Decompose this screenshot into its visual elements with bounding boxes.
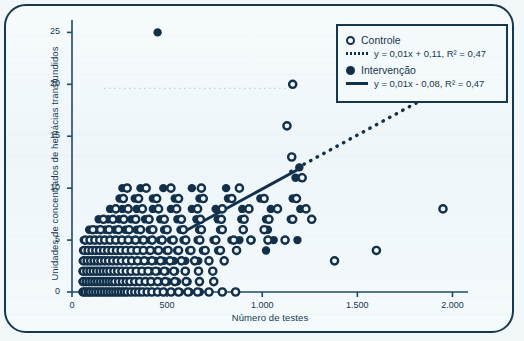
data-point-controle [170, 268, 177, 275]
data-point-controle [175, 288, 182, 295]
data-point-controle [230, 236, 237, 243]
data-point-controle [210, 278, 217, 285]
data-point-controle [236, 185, 243, 192]
data-point-controle [167, 185, 174, 192]
paper-texture-line [8, 314, 516, 315]
data-point-controle [100, 216, 107, 223]
paper-texture-line [8, 254, 516, 255]
data-point-controle [245, 205, 252, 212]
data-point-controle [166, 257, 173, 264]
y-tick-label: 10 [36, 182, 60, 192]
data-point-controle [209, 268, 216, 275]
data-point-controle [194, 205, 201, 212]
data-point-controle [180, 226, 187, 233]
data-point-controle [160, 288, 167, 295]
paper-texture-line [8, 95, 516, 96]
data-point-controle [141, 257, 148, 264]
data-point-controle [218, 216, 225, 223]
data-point-controle [89, 226, 96, 233]
data-point-controle [125, 226, 132, 233]
data-point-controle [159, 236, 166, 243]
x-tick-label: 1.500 [335, 300, 379, 310]
data-point-controle [289, 216, 296, 223]
data-point-controle [196, 278, 203, 285]
data-point-intervencao [293, 236, 301, 244]
data-point-controle [155, 247, 162, 254]
data-point-controle [219, 288, 226, 295]
data-point-controle [173, 205, 180, 212]
data-point-controle [161, 216, 168, 223]
data-point-controle [144, 268, 151, 275]
paper-texture-line [8, 176, 516, 177]
data-point-controle [293, 195, 300, 202]
data-point-controle [308, 216, 315, 223]
paper-texture-line [8, 74, 516, 75]
data-point-controle [120, 195, 127, 202]
y-tick-label: 15 [36, 130, 60, 140]
data-point-controle [212, 236, 219, 243]
legend-label-controle-equation: y = 0,01x + 0,11, R² = 0,47 [374, 48, 486, 59]
data-point-controle [196, 236, 203, 243]
data-point-controle [149, 236, 156, 243]
data-point-controle [178, 257, 185, 264]
paper-texture-line [8, 56, 516, 57]
data-point-controle [202, 247, 209, 254]
data-point-controle [194, 288, 201, 295]
data-point-controle [232, 288, 239, 295]
series-intervencao [78, 28, 305, 296]
x-tick-label: 500 [145, 300, 189, 310]
data-point-controle [140, 236, 147, 243]
data-point-controle [219, 205, 226, 212]
x-tick-label: 1.000 [240, 300, 284, 310]
data-point-controle [205, 288, 212, 295]
data-point-controle [261, 195, 268, 202]
data-point-controle [124, 185, 131, 192]
data-point-controle [187, 247, 194, 254]
data-point-controle [195, 268, 202, 275]
data-point-controle [132, 236, 139, 243]
paper-texture-line [8, 155, 516, 156]
paper-texture-line [8, 236, 516, 237]
data-point-controle [105, 226, 112, 233]
x-tick-label: 0 [50, 300, 94, 310]
paper-texture-line [8, 194, 516, 195]
data-point-controle [178, 216, 185, 223]
data-point-controle [274, 205, 281, 212]
data-point-controle [109, 216, 116, 223]
data-point-controle [182, 236, 189, 243]
x-tick-label: 2.000 [430, 300, 474, 310]
legend-entry-controle-equation: y = 0,01x + 0,11, R² = 0,47 [346, 48, 498, 59]
data-point-controle [143, 185, 150, 192]
paper-texture-line [8, 116, 516, 117]
data-point-controle [115, 226, 122, 233]
data-point-controle [145, 216, 152, 223]
data-point-controle [154, 278, 161, 285]
paper-texture-line [8, 215, 516, 216]
data-point-controle [149, 226, 156, 233]
data-point-controle [217, 247, 224, 254]
data-point-controle [182, 268, 189, 275]
data-point-controle [191, 257, 198, 264]
open-circle-icon [346, 36, 355, 45]
y-tick-label: 25 [36, 26, 60, 36]
data-point-intervencao [188, 184, 196, 192]
data-point-controle [247, 236, 254, 243]
data-point-controle [233, 247, 240, 254]
data-point-controle [97, 226, 104, 233]
data-point-controle [153, 195, 160, 202]
data-point-controle [205, 257, 212, 264]
data-point-controle [184, 288, 191, 295]
y-tick-label: 20 [36, 78, 60, 88]
data-point-controle [197, 216, 204, 223]
data-point-controle [137, 226, 144, 233]
data-point-controle [164, 247, 171, 254]
data-point-controle [147, 247, 154, 254]
data-point-intervencao [222, 184, 230, 192]
data-point-controle [373, 247, 380, 254]
data-point-controle [120, 216, 127, 223]
data-point-controle [161, 268, 168, 275]
dotted-line-icon [346, 52, 368, 55]
data-point-controle [198, 226, 205, 233]
paper-texture-line [8, 14, 516, 15]
paper-texture-line [8, 275, 516, 276]
